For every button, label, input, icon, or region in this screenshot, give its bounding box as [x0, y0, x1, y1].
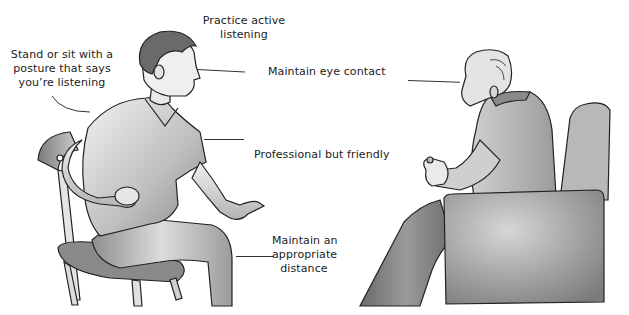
label-professional: Professional but friendly: [254, 148, 390, 162]
armchair-arm: [444, 190, 604, 304]
armchair: [560, 103, 610, 200]
label-posture: Stand or sit with a posture that says yo…: [10, 48, 114, 90]
label-distance: Maintain an appropriate distance: [272, 234, 336, 276]
professional-line: [204, 139, 244, 140]
label-active-listening-line-2: listening: [196, 28, 292, 42]
posture-pointer: [52, 96, 90, 112]
label-distance-line-1: Maintain an: [272, 234, 336, 248]
label-active-listening: Practice active listening: [196, 14, 292, 42]
label-distance-line-3: distance: [272, 262, 336, 276]
label-distance-line-2: appropriate: [272, 248, 336, 262]
label-eye-contact: Maintain eye contact: [268, 65, 386, 79]
label-posture-line-3: you’re listening: [10, 76, 114, 90]
distance-line: [236, 256, 274, 257]
label-active-listening-line-1: Practice active: [196, 14, 292, 28]
label-posture-line-1: Stand or sit with a: [10, 48, 114, 62]
label-posture-line-2: posture that says: [10, 62, 114, 76]
illustration-stage: Practice active listening Stand or sit w…: [0, 0, 629, 315]
